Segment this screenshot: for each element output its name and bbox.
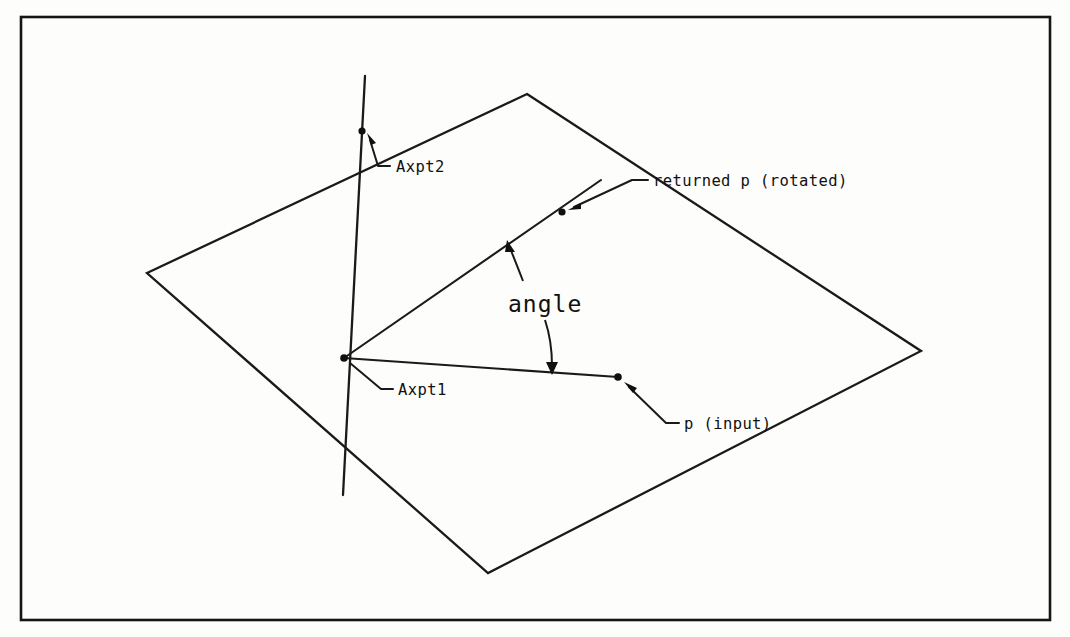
axpt1-label: Axpt1 [398, 381, 447, 399]
input-p-ray [344, 358, 618, 377]
angle-label: angle [508, 291, 582, 317]
axpt1-point [340, 354, 348, 362]
returned-p-label: returned p (rotated) [653, 172, 848, 190]
input-p-point [614, 373, 622, 381]
rotated-p-ray [344, 180, 601, 358]
angle-arrow-to-rotated-ray [510, 248, 523, 281]
axpt1-leader-line [350, 363, 393, 389]
diagram-canvas: Axpt2 Axpt1 returned p (rotated) p (inpu… [0, 0, 1070, 637]
axpt2-label: Axpt2 [396, 158, 445, 176]
figure-root: Axpt2 Axpt1 returned p (rotated) p (inpu… [0, 0, 1070, 637]
input-p-label: p (input) [684, 415, 772, 433]
axpt2-leader-arrowhead [367, 133, 376, 145]
page-border [21, 17, 1050, 620]
angle-arrow-to-input-ray [545, 320, 552, 366]
reference-plane [147, 94, 921, 573]
axpt2-point [358, 127, 365, 134]
returned-p-leader-line [574, 180, 648, 207]
rotation-axis-line [343, 76, 365, 495]
input-p-leader-arrowhead [624, 382, 637, 393]
input-p-leader-line [629, 387, 679, 423]
returned-p-point [558, 208, 565, 215]
